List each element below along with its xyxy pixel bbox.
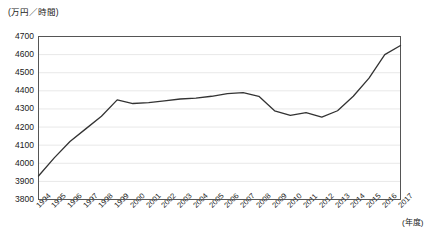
plot-border xyxy=(39,37,401,200)
gridlines xyxy=(39,55,401,182)
plot-area xyxy=(0,0,432,238)
line-chart: (万円／時間) (年度) 470046004500440043004200410… xyxy=(0,0,432,238)
data-series-line xyxy=(39,46,401,176)
